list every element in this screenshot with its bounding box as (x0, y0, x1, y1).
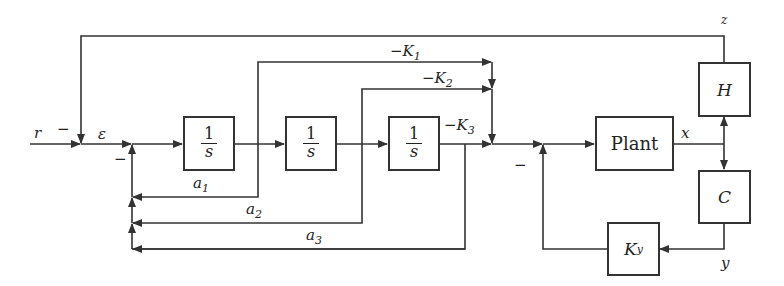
ky-block: Ky (607, 222, 660, 276)
sum4-minus-sign: − (514, 158, 527, 173)
sum1-minus-sign: − (57, 122, 70, 137)
plant-block: Plant (595, 116, 674, 171)
integrator-3-denominator: s (410, 144, 418, 161)
sum2-minus-sign: − (114, 152, 127, 167)
integrator-block-1: 1s (183, 116, 235, 171)
signal-error-label: ε (98, 127, 106, 142)
ky-main: K (624, 239, 637, 259)
gain-k2-label: −K2 (422, 71, 453, 89)
gain-a2-label: a2 (246, 202, 262, 220)
gain-k1-sub: 1 (414, 50, 421, 63)
gain-a1-main: a (193, 174, 202, 192)
gain-k3-label: −K3 (444, 118, 475, 136)
signal-z-label: z (721, 14, 727, 26)
gain-k1-main: −K (390, 42, 414, 60)
integrator-2-denominator: s (307, 144, 315, 161)
ky-sub: y (637, 243, 643, 256)
signal-y-label: y (721, 256, 729, 271)
gain-a3-label: a3 (306, 228, 322, 246)
gain-k2-main: −K (422, 69, 446, 87)
gain-a2-sub: 2 (255, 208, 262, 221)
signal-x-label: x (681, 126, 689, 141)
gain-a1-label: a1 (193, 176, 209, 194)
gain-k2-sub: 2 (446, 77, 453, 90)
integrator-block-2: 1s (285, 116, 337, 171)
gain-a3-main: a (306, 226, 315, 244)
c-block: C (698, 170, 751, 224)
integrator-block-3: 1s (388, 116, 440, 171)
gain-a1-sub: 1 (202, 182, 209, 195)
integrator-1-denominator: s (205, 144, 213, 161)
gain-a2-main: a (246, 200, 255, 218)
gain-a3-sub: 3 (315, 234, 322, 247)
gain-k1-label: −K1 (390, 44, 421, 62)
gain-k3-main: −K (444, 116, 468, 134)
signal-r-label: r (34, 126, 41, 141)
h-block: H (698, 62, 751, 117)
gain-k3-sub: 3 (468, 124, 475, 137)
